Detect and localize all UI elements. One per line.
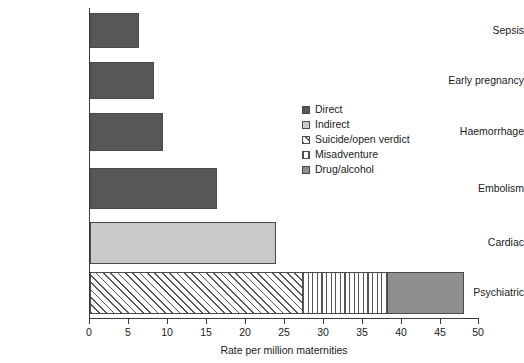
x-tick-label-50: 50	[472, 326, 484, 338]
x-tick-20	[245, 319, 246, 324]
x-tick-label-45: 45	[434, 326, 446, 338]
x-tick-label-0: 0	[86, 326, 92, 338]
legend: Direct Indirect Suicide/open verdict Mis…	[302, 103, 410, 178]
legend-label-direct: Direct	[315, 104, 342, 115]
category-label-embolism: Embolism	[440, 182, 524, 194]
x-tick-label-20: 20	[239, 326, 251, 338]
x-tick-0	[89, 319, 90, 324]
legend-swatch-misadventure-lines-icon	[302, 151, 310, 159]
legend-label-indirect: Indirect	[315, 119, 349, 130]
bar-sepsis-direct	[90, 13, 139, 48]
x-tick-35	[362, 319, 363, 324]
bar-psychiatric-misadventure	[302, 272, 388, 314]
x-tick-label-15: 15	[200, 326, 212, 338]
bar-haemorrhage-direct	[90, 113, 163, 151]
bar-early-pregnancy-direct	[90, 62, 154, 99]
bar-cardiac-indirect	[90, 222, 276, 264]
bar-psychiatric-suicide	[90, 272, 303, 314]
legend-swatch-suicide-hatch-icon	[302, 136, 310, 144]
x-tick-15	[206, 319, 207, 324]
x-tick-label-5: 5	[125, 326, 131, 338]
x-tick-label-35: 35	[356, 326, 368, 338]
x-tick-5	[128, 319, 129, 324]
x-tick-label-40: 40	[395, 326, 407, 338]
legend-swatch-drug-alcohol-icon	[302, 166, 310, 174]
x-tick-label-10: 10	[161, 326, 173, 338]
bar-psychiatric-drug-alcohol	[387, 272, 464, 314]
x-tick-45	[440, 319, 441, 324]
legend-item-direct: Direct	[302, 103, 410, 116]
category-label-haemorrhage: Haemorrhage	[440, 125, 524, 137]
bar-embolism-direct	[90, 168, 217, 209]
x-tick-50	[478, 319, 479, 324]
category-label-cardiac: Cardiac	[440, 236, 524, 248]
x-tick-label-25: 25	[278, 326, 290, 338]
legend-swatch-indirect-icon	[302, 121, 310, 129]
x-tick-10	[167, 319, 168, 324]
legend-label-suicide: Suicide/open verdict	[315, 134, 410, 145]
bar-chart: Sepsis Early pregnancy Haemorrhage Embol…	[0, 0, 524, 363]
x-tick-25	[284, 319, 285, 324]
legend-item-misadventure: Misadventure	[302, 148, 410, 161]
x-tick-label-30: 30	[317, 326, 329, 338]
category-label-sepsis: Sepsis	[440, 24, 524, 36]
x-axis-title: Rate per million maternities	[89, 344, 479, 356]
legend-label-drug-alcohol: Drug/alcohol	[315, 164, 374, 175]
legend-item-drug-alcohol: Drug/alcohol	[302, 163, 410, 176]
category-label-early-pregnancy: Early pregnancy	[440, 74, 524, 86]
legend-item-indirect: Indirect	[302, 118, 410, 131]
legend-label-misadventure: Misadventure	[315, 149, 378, 160]
legend-item-suicide: Suicide/open verdict	[302, 133, 410, 146]
x-tick-40	[401, 319, 402, 324]
x-tick-30	[323, 319, 324, 324]
legend-swatch-direct-icon	[302, 106, 310, 114]
